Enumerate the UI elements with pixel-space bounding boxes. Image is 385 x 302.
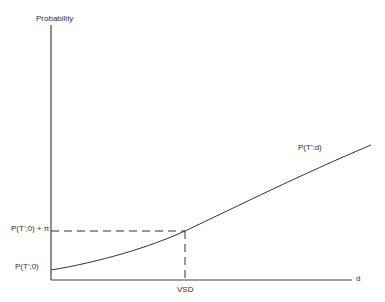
vsd-label: VSD [177, 285, 193, 294]
y-axis-label: Probability [36, 14, 73, 23]
probability-curve [51, 145, 371, 270]
probability-chart [0, 0, 385, 302]
threshold-label: P(T';0) + π [11, 224, 49, 233]
curve-label: P(T':d) [298, 143, 322, 152]
intercept-label: P(T';0) [15, 262, 39, 271]
x-axis-label: d [356, 274, 360, 283]
